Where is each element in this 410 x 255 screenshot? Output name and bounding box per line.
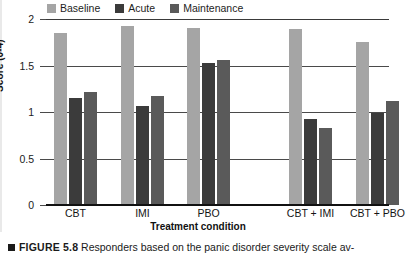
legend-swatch-icon [115,4,124,13]
caption-body-text: Responders based on the panic disorder s… [81,241,354,253]
y-tick-label: 0 [28,200,34,210]
y-axis-title: Score (0-4) [0,39,5,92]
bar [386,101,399,205]
legend-label: Maintenance [183,3,243,14]
x-axis-line [46,204,389,206]
legend-swatch-icon [170,4,179,13]
bar [151,96,164,205]
y-tick-label: 2 [28,14,34,24]
bar [304,119,317,205]
caption-square-icon [8,244,15,251]
bar [121,26,134,205]
bar-series-container [46,19,389,205]
bar [371,113,384,205]
caption-figure-number: FIGURE 5.8 [19,241,78,253]
bar [356,42,369,205]
chart-legend: BaselineAcuteMaintenance [47,2,243,15]
bar [84,92,97,205]
legend-label: Baseline [60,3,100,14]
legend-baseline: Baseline [47,3,100,14]
legend-acute: Acute [115,3,155,14]
bar [289,29,302,205]
legend-swatch-icon [47,4,56,13]
bar [217,60,230,205]
y-tick-label: 0.5 [19,154,34,164]
y-tick-label: 1 [28,107,34,117]
x-tick-label: PBO [169,208,249,219]
bar [319,128,332,205]
x-tick-label: CBT + PBO [338,208,410,219]
bar [69,98,82,205]
x-axis-tick-labels: CBTIMIPBOCBT + IMICBT + PBO [46,208,389,222]
bar [202,63,215,205]
legend-maintenance: Maintenance [170,3,243,14]
bar [136,106,149,206]
y-tick-label: 1.5 [19,61,34,71]
plot-area [46,19,389,205]
figure-caption: FIGURE 5.8 Responders based on the panic… [8,241,396,254]
bar [54,33,67,205]
legend-label: Acute [128,3,155,14]
y-axis-tick-labels: 00.511.52 [0,19,44,205]
x-axis-title: Treatment condition [0,221,396,232]
bar [187,28,200,205]
